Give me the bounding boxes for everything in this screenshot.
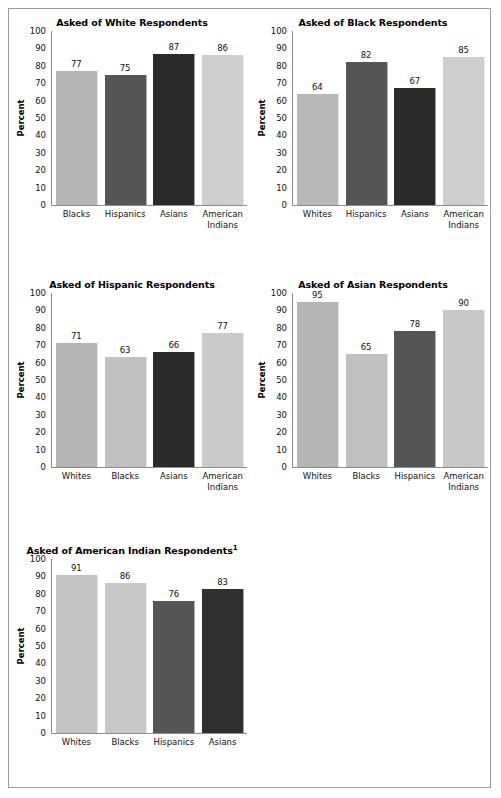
x-tick-label-line: Asians — [150, 471, 199, 482]
x-tick-label-line: American — [439, 471, 488, 482]
chart-title: Asked of Hispanic Respondents — [13, 277, 251, 293]
x-tick-label: Asians — [150, 209, 199, 220]
x-tick-label: Whites — [293, 471, 342, 482]
y-tick-label: 70 — [35, 78, 46, 88]
x-tick-label: Hispanics — [391, 471, 440, 482]
y-tick-label: 70 — [276, 78, 287, 88]
x-tick-label-line: Asians — [198, 737, 247, 748]
bar — [346, 354, 388, 467]
bar-slot: 82 — [342, 31, 391, 205]
bar-value-label: 66 — [150, 340, 199, 350]
y-axis-ticks: 1009080706050403020100 — [25, 559, 49, 733]
y-tick-label: 30 — [276, 148, 287, 158]
y-tick-label: 60 — [35, 624, 46, 634]
bar-slot: 75 — [101, 31, 150, 205]
bar-value-label: 71 — [52, 331, 101, 341]
bar-slot: 76 — [150, 559, 199, 733]
bar-value-label: 65 — [342, 342, 391, 352]
y-tick-label: 90 — [276, 305, 287, 315]
x-tick-label-line: Asians — [150, 209, 199, 220]
bar-value-label: 86 — [198, 43, 247, 53]
chart-panel-1: Asked of Black RespondentsPercent1009080… — [254, 15, 492, 273]
bar-value-label: 75 — [101, 63, 150, 73]
bar — [105, 357, 147, 467]
y-tick-label: 10 — [276, 183, 287, 193]
x-axis-line — [292, 467, 488, 468]
plot-area-wrapper: Percent100908070605040302010095657890Whi… — [254, 293, 492, 508]
y-tick-label: 70 — [35, 606, 46, 616]
y-tick-label: 50 — [276, 113, 287, 123]
x-tick-label-line: Whites — [293, 471, 342, 482]
x-tick-label-line: Blacks — [342, 471, 391, 482]
y-tick-label: 0 — [41, 462, 46, 472]
bar-value-label: 87 — [150, 42, 199, 52]
y-tick-label: 80 — [35, 61, 46, 71]
bar-slot: 87 — [150, 31, 199, 205]
y-tick-label: 20 — [35, 427, 46, 437]
bar-slot: 86 — [198, 31, 247, 205]
y-tick-label: 20 — [276, 165, 287, 175]
bar-value-label: 90 — [439, 298, 488, 308]
bar — [346, 62, 388, 205]
bar — [153, 352, 195, 467]
y-tick-label: 10 — [276, 445, 287, 455]
y-tick-label: 50 — [35, 641, 46, 651]
x-tick-label: Hispanics — [342, 209, 391, 220]
x-tick-label-line: Hispanics — [391, 471, 440, 482]
y-tick-label: 70 — [35, 340, 46, 350]
bar — [105, 75, 147, 206]
y-axis-ticks: 1009080706050403020100 — [25, 293, 49, 467]
y-tick-label: 20 — [35, 165, 46, 175]
x-axis-line — [292, 205, 488, 206]
x-axis-labels: WhitesBlacksHispanicsAsians — [52, 737, 247, 771]
chart-panel-3: Asked of Asian RespondentsPercent1009080… — [254, 277, 492, 535]
bars-container: 64826785 — [293, 31, 488, 205]
x-tick-label-line: Blacks — [101, 737, 150, 748]
bars-container: 71636677 — [52, 293, 247, 467]
x-tick-label-line: Hispanics — [101, 209, 150, 220]
y-tick-label: 40 — [35, 392, 46, 402]
plot-area-wrapper: Percent100908070605040302010077758786Bla… — [13, 31, 251, 246]
x-tick-label: Blacks — [52, 209, 101, 220]
y-tick-label: 100 — [30, 26, 46, 36]
y-tick-label: 0 — [282, 462, 287, 472]
bar-value-label: 67 — [391, 76, 440, 86]
page-frame: Asked of White RespondentsPercent1009080… — [8, 8, 491, 788]
x-axis-labels: WhitesHispanicsAsiansAmericanIndians — [293, 209, 488, 243]
x-tick-label: AmericanIndians — [439, 209, 488, 231]
x-tick-label: Blacks — [342, 471, 391, 482]
y-tick-label: 0 — [41, 728, 46, 738]
x-axis-line — [51, 733, 247, 734]
y-tick-label: 60 — [35, 358, 46, 368]
charts-grid: Asked of White RespondentsPercent1009080… — [9, 9, 490, 787]
x-tick-label-line: American — [198, 471, 247, 482]
x-tick-label: AmericanIndians — [198, 209, 247, 231]
bar — [153, 601, 195, 733]
bar — [202, 333, 244, 467]
bar-slot: 77 — [52, 31, 101, 205]
x-tick-label: Blacks — [101, 737, 150, 748]
y-tick-label: 30 — [35, 410, 46, 420]
bar-slot: 91 — [52, 559, 101, 733]
x-axis-labels: WhitesBlacksHispanicsAmericanIndians — [293, 471, 488, 505]
bar — [56, 343, 98, 467]
bar-value-label: 77 — [198, 321, 247, 331]
plot-area-wrapper: Percent100908070605040302010071636677Whi… — [13, 293, 251, 508]
x-tick-label-line: American — [198, 209, 247, 220]
bar-value-label: 64 — [293, 82, 342, 92]
x-axis-labels: BlacksHispanicsAsiansAmericanIndians — [52, 209, 247, 243]
bar — [202, 589, 244, 733]
x-tick-label-line: Indians — [439, 482, 488, 493]
bar — [394, 88, 436, 205]
bar — [56, 71, 98, 205]
x-tick-label: Hispanics — [101, 209, 150, 220]
y-tick-label: 80 — [35, 589, 46, 599]
bar-slot: 77 — [198, 293, 247, 467]
y-tick-label: 80 — [276, 61, 287, 71]
y-tick-label: 100 — [271, 26, 287, 36]
bar — [56, 575, 98, 733]
x-tick-label-line: Indians — [439, 220, 488, 231]
y-tick-label: 80 — [276, 323, 287, 333]
x-tick-label: Whites — [293, 209, 342, 220]
bar-slot: 95 — [293, 293, 342, 467]
